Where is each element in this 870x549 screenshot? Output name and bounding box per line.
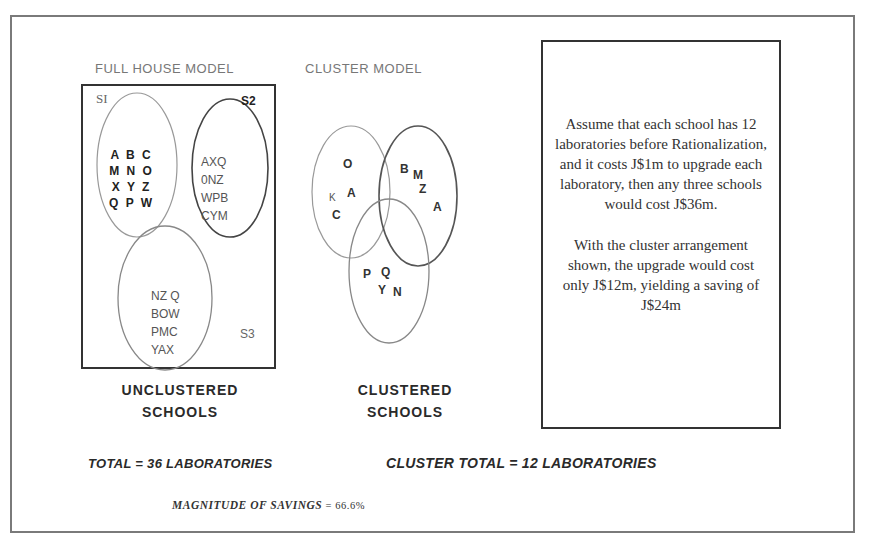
cluster-letter: A	[433, 200, 442, 214]
explanation-paragraph-2: With the cluster arrangement shown, the …	[553, 235, 769, 315]
member-row: CYM	[201, 207, 228, 225]
cluster-right-ellipse	[379, 126, 457, 266]
member-row: X Y Z	[109, 179, 154, 195]
set-s1-label: SI	[96, 91, 108, 107]
explanation-paragraph-1: Assume that each school has 12 laborator…	[553, 114, 769, 214]
caption-line: UNCLUSTERED	[100, 379, 260, 401]
magnitude-of-savings: MAGNITUDE OF SAVINGS = 66.6%	[172, 499, 365, 511]
member-row: YAX	[151, 341, 180, 359]
caption-line: CLUSTERED	[340, 379, 470, 401]
magnitude-value: 66.6%	[335, 500, 365, 511]
cluster-letter: A	[347, 186, 356, 200]
caption-line: SCHOOLS	[100, 401, 260, 423]
cluster-letter: B	[400, 162, 409, 176]
member-row: WPB	[201, 189, 228, 207]
set-s3-members: NZ Q BOW PMC YAX	[151, 287, 180, 359]
cluster-letter: Q	[381, 265, 390, 279]
unclustered-total: TOTAL = 36 LABORATORIES	[88, 456, 272, 471]
magnitude-label: MAGNITUDE OF SAVINGS	[172, 499, 322, 511]
set-s3-label: S3	[240, 327, 255, 341]
cluster-letter: C	[332, 208, 341, 222]
set-s2-label: S2	[241, 94, 256, 108]
clustered-caption: CLUSTERED SCHOOLS	[340, 379, 470, 423]
cluster-letter: M	[413, 168, 423, 182]
member-row: A B C	[109, 147, 154, 163]
cluster-total: CLUSTER TOTAL = 12 LABORATORIES	[386, 455, 657, 471]
member-row: Q P W	[109, 195, 154, 211]
cluster-letter: Y	[378, 283, 386, 297]
cluster-letter: P	[363, 267, 371, 281]
cluster-letter: Z	[419, 182, 426, 196]
cluster-letter: N	[393, 285, 402, 299]
cluster-letter: O	[343, 157, 352, 171]
cluster-letter: K	[329, 192, 336, 203]
caption-line: SCHOOLS	[340, 401, 470, 423]
member-row: PMC	[151, 323, 180, 341]
set-s1-members: A B C M N O X Y Z Q P W	[109, 147, 154, 211]
member-row: M N O	[109, 163, 154, 179]
explanation-box: Assume that each school has 12 laborator…	[541, 40, 781, 429]
member-row: BOW	[151, 305, 180, 323]
member-row: AXQ	[201, 153, 228, 171]
member-row: NZ Q	[151, 287, 180, 305]
set-s2-members: AXQ 0NZ WPB CYM	[201, 153, 228, 225]
member-row: 0NZ	[201, 171, 228, 189]
equals-sign: =	[326, 500, 332, 511]
unclustered-caption: UNCLUSTERED SCHOOLS	[100, 379, 260, 423]
